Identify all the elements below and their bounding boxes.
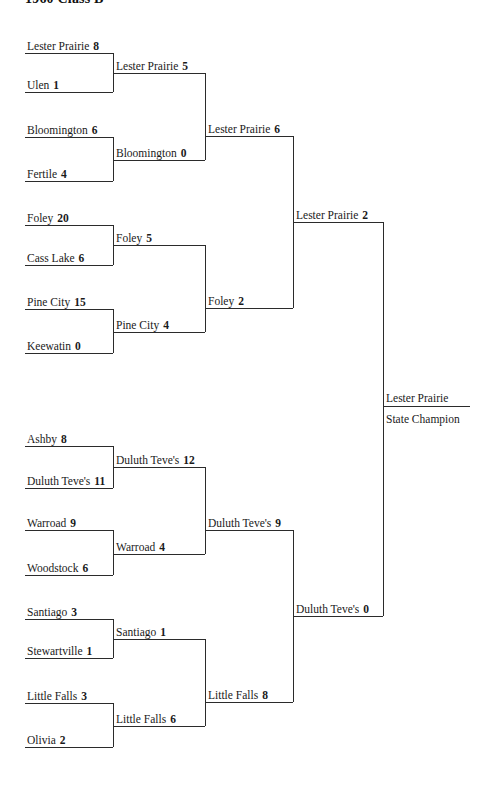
team-label: Olivia2 — [27, 734, 66, 746]
bracket-line — [113, 245, 205, 246]
bracket-line — [25, 488, 113, 489]
bracket-line — [25, 619, 113, 620]
team-label: Ashby8 — [27, 433, 67, 445]
winner-label: Santiago1 — [116, 626, 166, 638]
bracket-line — [113, 73, 205, 74]
winner-label: Lester Prairie5 — [116, 60, 188, 72]
champion-underline — [383, 406, 470, 407]
winner-label: Lester Prairie2 — [296, 209, 368, 221]
bracket-line — [205, 702, 293, 703]
team-label: Foley20 — [27, 212, 69, 224]
team-label: Ulen1 — [27, 79, 59, 91]
bracket-line — [113, 309, 114, 353]
winner-label: Pine City4 — [116, 319, 169, 331]
winner-label: Foley2 — [208, 295, 244, 307]
winner-label: Little Falls8 — [208, 689, 268, 701]
bracket-line — [293, 222, 383, 223]
bracket-line — [205, 136, 293, 137]
team-label: Fertile4 — [27, 168, 67, 180]
team-label: Woodstock6 — [27, 562, 88, 574]
winner-label: Foley5 — [116, 232, 152, 244]
bracket-line — [25, 703, 113, 704]
team-label: Cass Lake6 — [27, 252, 84, 264]
winner-label: Duluth Teve's9 — [208, 517, 281, 529]
bracket-line — [113, 137, 114, 181]
winner-label: Lester Prairie6 — [208, 123, 280, 135]
bracket-line — [25, 658, 113, 659]
bracket-line — [25, 575, 113, 576]
bracket-line — [25, 353, 113, 354]
bracket-line — [383, 222, 384, 616]
bracket-line — [205, 639, 206, 726]
bracket-line — [25, 53, 113, 54]
bracket-line — [113, 160, 205, 161]
bracket-line — [205, 245, 206, 332]
bracket-line — [113, 726, 205, 727]
bracket-line — [25, 225, 113, 226]
bracket-line — [113, 639, 205, 640]
bracket-line — [205, 73, 206, 160]
page-title: 1960 Class B — [25, 0, 104, 7]
team-label: Duluth Teve's11 — [27, 475, 105, 487]
bracket-line — [25, 446, 113, 447]
winner-label: Duluth Teve's12 — [116, 454, 195, 466]
bracket-line — [25, 92, 113, 93]
team-label: Bloomington6 — [27, 124, 97, 136]
bracket-line — [113, 530, 114, 575]
team-label: Lester Prairie8 — [27, 40, 99, 52]
winner-label: Warroad4 — [116, 541, 165, 553]
bracket-line — [113, 554, 205, 555]
champion-name: Lester Prairie — [386, 392, 448, 404]
bracket-line — [205, 530, 293, 531]
team-label: Pine City15 — [27, 296, 86, 308]
bracket-line — [293, 616, 383, 617]
team-label: Santiago3 — [27, 606, 77, 618]
bracket-line — [113, 703, 114, 747]
bracket-line — [113, 467, 205, 468]
team-label: Little Falls3 — [27, 690, 87, 702]
bracket-line — [25, 309, 113, 310]
bracket-line — [25, 265, 113, 266]
bracket-line — [25, 137, 113, 138]
bracket-line — [205, 467, 206, 554]
champion-label: State Champion — [386, 413, 460, 425]
winner-label: Bloomington0 — [116, 147, 186, 159]
tournament-bracket: 1960 Class B Lester Prairie8 Ulen1 Bloom… — [0, 0, 503, 791]
bracket-line — [25, 530, 113, 531]
winner-label: Duluth Teve's0 — [296, 603, 369, 615]
bracket-line — [25, 747, 113, 748]
winner-label: Little Falls6 — [116, 713, 176, 725]
team-label: Stewartville1 — [27, 645, 92, 657]
team-label: Warroad9 — [27, 517, 76, 529]
bracket-line — [205, 308, 293, 309]
bracket-line — [113, 332, 205, 333]
bracket-line — [25, 181, 113, 182]
team-label: Keewatin0 — [27, 340, 81, 352]
